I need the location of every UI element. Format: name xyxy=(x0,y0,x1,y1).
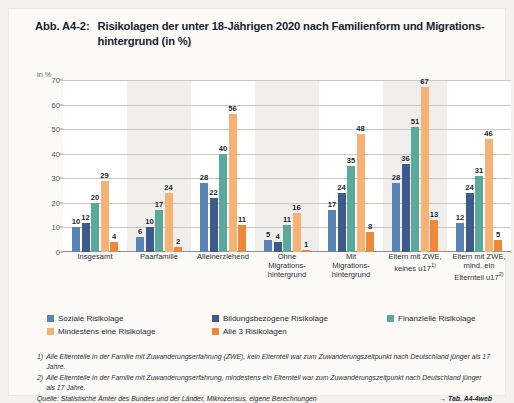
legend-item[interactable]: Mindestens eine Risikolage xyxy=(47,325,212,338)
y-axis-tick-label: 40 xyxy=(52,149,60,158)
bar-value-label: 4 xyxy=(275,232,279,241)
bar[interactable]: 4 xyxy=(274,242,282,252)
bar[interactable]: 4 xyxy=(110,242,118,252)
bar-group: 101220294 xyxy=(63,80,127,252)
footnote-text: Alle Elternteile in der Familie mit Zuwa… xyxy=(46,373,492,393)
legend-item[interactable]: Alle 3 Risikolagen xyxy=(212,325,387,338)
legend-label: Finanzielle Risikolage xyxy=(398,312,475,325)
bar-value-label: 24 xyxy=(465,183,473,192)
legend-label: Mindestens eine Risikolage xyxy=(58,325,155,338)
legend-item[interactable]: Soziale Risikolage xyxy=(47,312,212,325)
bar-value-label: 2 xyxy=(176,237,180,246)
x-axis-label: Insgesamt xyxy=(63,252,127,282)
bar-value-label: 5 xyxy=(496,230,500,239)
page-title: Risikolagen der unter 18-Jährigen 2020 n… xyxy=(98,19,485,49)
x-axis-label: Alleinerziehend xyxy=(191,252,255,282)
bar[interactable]: 67 xyxy=(421,87,429,252)
bar[interactable]: 5 xyxy=(494,240,502,252)
bar-value-label: 28 xyxy=(200,173,208,182)
legend-swatch xyxy=(212,328,219,335)
bar-value-label: 10 xyxy=(145,217,153,226)
bar[interactable]: 24 xyxy=(466,193,474,252)
bar[interactable]: 29 xyxy=(101,181,109,252)
y-axis-tick-label: 60 xyxy=(52,100,60,109)
bar-value-label: 13 xyxy=(430,210,438,219)
bar-value-label: 22 xyxy=(209,188,217,197)
table-reference-link[interactable]: → Tab. A4-4web xyxy=(439,394,492,403)
bar-group: 172435488 xyxy=(319,80,383,252)
bar[interactable]: 31 xyxy=(475,176,483,252)
bar-value-label: 1 xyxy=(304,240,308,249)
y-axis-unit-label: in % xyxy=(37,70,51,79)
plot-canvas: 010203040506070 101220294610172422822405… xyxy=(63,80,511,252)
bar-group: 122431465 xyxy=(447,80,511,252)
bar[interactable]: 22 xyxy=(210,198,218,252)
legend-swatch xyxy=(47,328,54,335)
bar-group: 5411161 xyxy=(255,80,319,252)
bar[interactable]: 28 xyxy=(392,183,400,252)
bar-value-label: 28 xyxy=(392,173,400,182)
bar-value-label: 24 xyxy=(337,183,345,192)
bar[interactable]: 48 xyxy=(357,134,365,252)
bar-value-label: 12 xyxy=(81,213,89,222)
legend-item[interactable]: Bildungsbezogene Risikolage xyxy=(212,312,387,325)
footnote: 1)Alle Elternteile in der Familie mit Zu… xyxy=(37,352,492,372)
bar-value-label: 17 xyxy=(328,200,336,209)
bar[interactable]: 24 xyxy=(338,193,346,252)
bar[interactable]: 5 xyxy=(264,240,272,252)
footnotes: 1)Alle Elternteile in der Familie mit Zu… xyxy=(37,352,492,403)
legend-item[interactable]: Finanzielle Risikolage xyxy=(387,312,487,325)
figure-number: Abb. A4-2: xyxy=(35,19,90,34)
y-axis-tick-label: 10 xyxy=(52,223,60,232)
bar[interactable]: 6 xyxy=(136,237,144,252)
bar[interactable]: 56 xyxy=(229,114,237,252)
bar-value-label: 31 xyxy=(475,166,483,175)
footnote-marker: 2) xyxy=(37,373,43,393)
bar[interactable]: 11 xyxy=(283,225,291,252)
bar[interactable]: 51 xyxy=(411,127,419,252)
bar[interactable]: 17 xyxy=(328,210,336,252)
bar[interactable]: 16 xyxy=(293,213,301,252)
bar-groups: 1012202946101724228224056115411161172435… xyxy=(63,80,511,252)
bar[interactable]: 28 xyxy=(200,183,208,252)
bar[interactable]: 20 xyxy=(91,203,99,252)
footnote: 2)Alle Elternteile in der Familie mit Zu… xyxy=(37,373,492,393)
bar[interactable]: 8 xyxy=(366,232,374,252)
bar-value-label: 4 xyxy=(112,232,116,241)
bar-value-label: 51 xyxy=(411,117,419,126)
bar[interactable]: 40 xyxy=(219,154,227,252)
bar[interactable]: 10 xyxy=(146,227,154,252)
bar[interactable]: 36 xyxy=(402,164,410,252)
x-axis-label: Paarfamilie xyxy=(127,252,191,282)
bar-value-label: 56 xyxy=(228,104,236,113)
y-axis-tick-label: 20 xyxy=(52,198,60,207)
bar[interactable]: 12 xyxy=(82,223,90,252)
bar-group: 2836516713 xyxy=(383,80,447,252)
bar-value-label: 12 xyxy=(456,213,464,222)
bar-value-label: 6 xyxy=(138,227,142,236)
chart-legend: Soziale RisikolageBildungsbezogene Risik… xyxy=(47,312,487,338)
x-axis-label: OhneMigrations-hintergrund xyxy=(255,252,319,282)
bar[interactable]: 11 xyxy=(238,225,246,252)
bar[interactable]: 35 xyxy=(347,166,355,252)
bar-value-label: 36 xyxy=(401,154,409,163)
footnote-text: Alle Elternteile in der Familie mit Zuwa… xyxy=(46,352,492,372)
bar[interactable]: 10 xyxy=(72,227,80,252)
footnote-marker: 1) xyxy=(37,352,43,372)
bar[interactable]: 24 xyxy=(165,193,173,252)
legend-label: Alle 3 Risikolagen xyxy=(223,325,287,338)
legend-swatch xyxy=(387,315,394,322)
bar-value-label: 11 xyxy=(283,215,291,224)
bar-value-label: 67 xyxy=(420,77,428,86)
bar-value-label: 46 xyxy=(484,129,492,138)
bar[interactable]: 12 xyxy=(456,223,464,252)
bar[interactable]: 17 xyxy=(155,210,163,252)
figure-sheet: Abb. A4-2: Risikolagen der unter 18-Jähr… xyxy=(9,9,505,395)
y-axis-tick-label: 70 xyxy=(52,76,60,85)
bar[interactable]: 46 xyxy=(485,139,493,252)
x-axis-labels: InsgesamtPaarfamilieAlleinerziehendOhneM… xyxy=(63,252,511,282)
legend-label: Soziale Risikolage xyxy=(58,312,123,325)
bar[interactable]: 13 xyxy=(430,220,438,252)
bar-value-label: 8 xyxy=(368,222,372,231)
bar-value-label: 24 xyxy=(164,183,172,192)
